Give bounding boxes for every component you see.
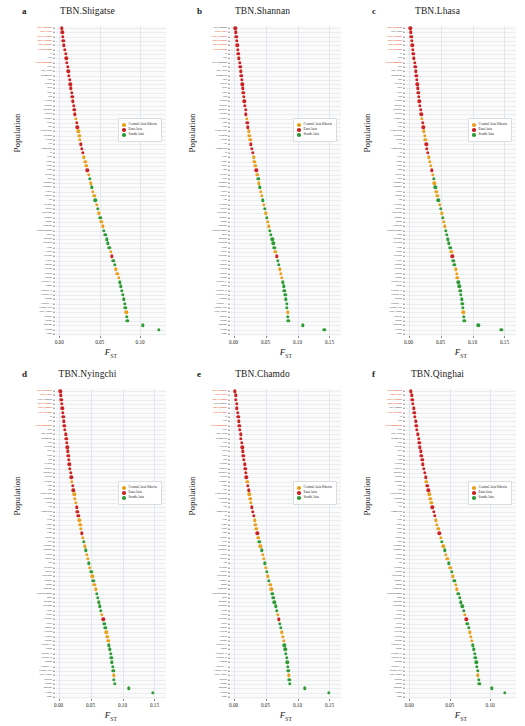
y-tick-mark (228, 222, 230, 223)
y-tick-mark (53, 606, 55, 607)
y-tick-label: Kalmyk (219, 480, 227, 482)
y-tick-label: Tuvinian (43, 498, 52, 500)
y-tick-mark (53, 290, 55, 291)
gridline-h (56, 308, 166, 309)
y-tick-label: Irula (397, 541, 402, 543)
gridline-h (56, 286, 166, 287)
gridline-h (231, 693, 341, 694)
gridline-h (56, 205, 166, 206)
y-tick-label: Tuvinian (393, 498, 402, 500)
y-tick-label: Irula (222, 541, 227, 543)
y-tick-mark (403, 615, 405, 616)
gridline-v (409, 389, 410, 699)
panel-header-d: dTBN.Nyingchi (0, 369, 175, 387)
y-tick-label: TBN.Shannan (387, 390, 402, 392)
y-tick-mark (403, 105, 405, 106)
y-tick-mark (403, 490, 405, 491)
y-tick-label: TBN.Nyingchi (37, 36, 52, 38)
y-tick-mark (403, 511, 405, 512)
x-tick-label: 0.05 (86, 702, 95, 708)
y-tick-mark (228, 161, 230, 162)
y-tick-mark (228, 67, 230, 68)
gridline-h (406, 239, 516, 240)
gridline-v (140, 26, 141, 336)
y-tick-label: TBN.Qinghai (38, 407, 52, 409)
gridline-h (231, 417, 341, 418)
y-tick-mark (228, 135, 230, 136)
y-tick-label: SHP.Zhongni (38, 411, 52, 413)
x-axis-title-e: FST (231, 710, 341, 722)
y-tick-label: Balochi (219, 315, 227, 317)
y-tick-label: TBN.Chamdo (213, 403, 227, 405)
gridline-h (56, 688, 166, 689)
gridline-h (56, 63, 166, 64)
y-tick-mark (403, 567, 405, 568)
y-tick-label: Uzbek (46, 554, 52, 556)
y-tick-label: Selkups (44, 566, 52, 568)
y-tick-mark (228, 666, 230, 667)
gridline-h (406, 252, 516, 253)
y-tick-label: SHP.Zhongni (38, 48, 52, 50)
y-tick-label: Kalash (395, 691, 402, 693)
gridline-h (56, 162, 166, 163)
y-tick-label: Burusho (394, 238, 402, 240)
gridline-h (231, 456, 341, 457)
legend-dot-icon (297, 491, 301, 495)
y-tick-label: Kashmiri (218, 186, 227, 188)
y-tick-mark (228, 477, 230, 478)
y-tick-label: Itakano (45, 277, 52, 279)
y-tick-label: Dai (48, 506, 52, 508)
plot-area-f (406, 389, 516, 699)
gridline-h (231, 265, 341, 266)
gridline-h (231, 439, 341, 440)
y-tick-label: Uzbek (221, 554, 227, 556)
x-tick-label: 0.10 (486, 702, 495, 708)
y-tick-label: Uzbek (396, 554, 402, 556)
gridline-h (231, 179, 341, 180)
y-tick-label: Mongolian (391, 74, 402, 76)
gridline-h (56, 71, 166, 72)
gridline-h (406, 637, 516, 638)
y-tick-mark (53, 84, 55, 85)
y-tick-label: Tuvinian (393, 135, 402, 137)
y-tick-mark (53, 308, 55, 309)
y-tick-mark (228, 516, 230, 517)
y-tick-label: Mala (222, 597, 227, 599)
gridline-h (406, 628, 516, 629)
y-tick-mark (228, 649, 230, 650)
y-tick-label: Japanese (43, 472, 52, 474)
gridline-h (406, 76, 516, 77)
y-tick-label: Xibo (47, 79, 52, 81)
y-tick-mark (228, 187, 230, 188)
y-tick-mark (228, 58, 230, 59)
y-tick-mark (228, 391, 230, 392)
y-tick-mark (53, 636, 55, 637)
y-tick-label: Burusho (44, 601, 52, 603)
gridline-h (231, 80, 341, 81)
y-tick-label: Pathans (44, 298, 52, 300)
gridlines-f (406, 389, 516, 699)
y-tick-label: Uchi (47, 156, 52, 158)
y-tick-mark (403, 295, 405, 296)
gridlines-b (231, 26, 341, 336)
y-tick-mark (53, 41, 55, 42)
y-tick-label: Onge (222, 696, 227, 698)
y-tick-label: Japanese (218, 109, 227, 111)
y-tick-label: Aleutian (44, 268, 52, 270)
y-tick-label: Lahu (222, 532, 227, 534)
y-tick-label: TBN.Shannan (37, 27, 52, 29)
gridline-h (56, 576, 166, 577)
y-tick-label: Brahui (220, 683, 227, 685)
y-tick-label: Koryaks (219, 618, 227, 620)
y-tick-mark (403, 308, 405, 309)
y-tick-label: Gujarati_A (41, 665, 52, 667)
gridline-h (406, 555, 516, 556)
y-tick-label: Onge (47, 696, 52, 698)
x-tick-label: 0.05 (261, 702, 270, 708)
y-tick-mark (53, 278, 55, 279)
gridline-h (231, 162, 341, 163)
x-tick-label: 0.15 (325, 702, 334, 708)
gridline-h (231, 170, 341, 171)
y-tick-mark (228, 179, 230, 180)
y-tick-mark (228, 140, 230, 141)
